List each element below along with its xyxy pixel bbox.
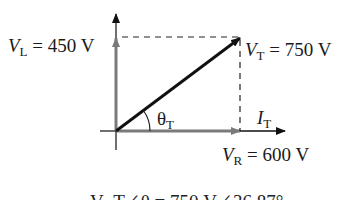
vr-label: VR = 600 V [222,145,309,167]
bottom-caption-cropped: V_T∠θ = 750 V∠36.87° [90,192,283,200]
vt-label: VT = 750 V [245,40,331,62]
it-label: IT [257,108,271,130]
phasor-diagram [0,0,362,200]
angle-arc [143,110,150,131]
vt-vector [116,38,240,131]
theta-label: θT [157,109,174,131]
vl-label: VL = 450 V [8,36,94,58]
